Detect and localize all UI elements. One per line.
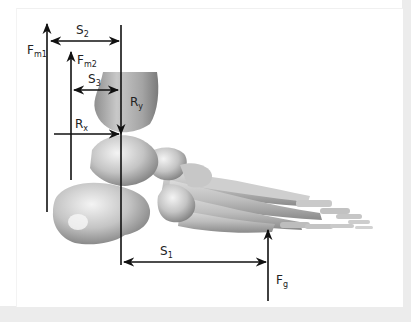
label-fg: Fg <box>276 273 288 289</box>
calcaneus-bone <box>53 183 150 245</box>
label-fm2: Fm2 <box>77 53 97 69</box>
label-s2: S2 <box>76 23 89 39</box>
label-fm1: Fm1 <box>27 43 47 59</box>
tibia-bone <box>94 72 158 132</box>
foot-bones <box>53 72 373 244</box>
foot-force-diagram: Fm1 Fm2 S2 S3 Ry Rx S1 Fg <box>0 0 411 322</box>
talus-bone <box>90 135 158 186</box>
label-s3: S3 <box>88 72 101 88</box>
label-rx: Rx <box>75 117 88 133</box>
label-s1: S1 <box>160 244 173 260</box>
